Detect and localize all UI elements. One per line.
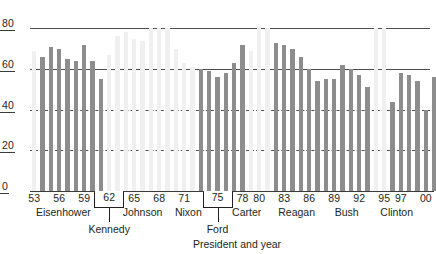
y-tick-value: 20	[0, 139, 15, 153]
x-tick-label: 86	[303, 192, 315, 204]
bar	[257, 26, 262, 191]
bar-series	[30, 8, 430, 191]
bar	[82, 45, 87, 191]
bar	[207, 71, 212, 191]
x-tick-label: 75	[204, 191, 232, 203]
bar	[415, 81, 420, 191]
x-tick-label: 68	[153, 192, 165, 204]
approval-rating-bar-chart: 020406080 535659656871788083868992959700…	[0, 0, 436, 254]
bar	[424, 110, 429, 191]
bar	[357, 75, 362, 191]
x-tick-label: 89	[328, 192, 340, 204]
x-axis-title: President and year	[193, 238, 281, 250]
bar	[57, 49, 62, 191]
y-tick-label: 0	[0, 180, 28, 194]
plot-area	[30, 8, 430, 191]
bar	[307, 69, 312, 191]
bar	[99, 79, 104, 191]
president-label: Clinton	[380, 206, 413, 218]
president-bracket: 62	[94, 192, 124, 208]
x-tick-label: 78	[237, 192, 249, 204]
bar	[132, 39, 137, 192]
bar	[40, 57, 45, 191]
bar	[107, 55, 112, 191]
bar	[249, 51, 254, 191]
x-tick-label: 95	[378, 192, 390, 204]
x-tick-label: 97	[395, 192, 407, 204]
bar	[174, 49, 179, 191]
bar	[49, 47, 54, 191]
bar	[149, 28, 154, 191]
bar	[274, 43, 279, 191]
y-tick-value: 80	[0, 17, 15, 31]
x-tick-label: 71	[178, 192, 190, 204]
x-tick-label: 80	[253, 192, 265, 204]
president-label: Eisenhower	[36, 206, 91, 218]
x-tick-label: 83	[278, 192, 290, 204]
bar	[265, 28, 270, 191]
y-tick-label: 80	[0, 17, 28, 31]
president-label: Bush	[335, 206, 359, 218]
x-tick-label: 00	[420, 192, 432, 204]
bar	[224, 73, 229, 191]
president-bracket: 75	[203, 192, 233, 208]
x-tick-label: 65	[128, 192, 140, 204]
bar	[365, 87, 370, 191]
bar	[315, 81, 320, 191]
bar	[349, 69, 354, 191]
president-label: Carter	[232, 206, 261, 218]
bar	[382, 28, 387, 191]
president-callout-label: Ford	[207, 223, 229, 235]
bar	[240, 45, 245, 191]
bar	[340, 65, 345, 191]
x-tick-label: 56	[53, 192, 65, 204]
x-tick-label: 59	[78, 192, 90, 204]
bar	[165, 28, 170, 191]
president-label: Reagan	[278, 206, 315, 218]
bar	[140, 41, 145, 191]
bar	[65, 59, 70, 191]
bar	[232, 63, 237, 191]
bar	[157, 28, 162, 191]
x-tick-label: 92	[353, 192, 365, 204]
bar	[324, 79, 329, 191]
bar	[282, 45, 287, 191]
callout-leader-line	[218, 208, 219, 222]
president-label: Nixon	[175, 206, 202, 218]
bar	[190, 67, 195, 191]
bar	[115, 36, 120, 191]
callout-leader-line	[109, 208, 110, 222]
bar	[290, 49, 295, 191]
bar	[432, 77, 436, 191]
bar	[374, 28, 379, 191]
bar	[32, 51, 37, 191]
y-tick-value: 0	[0, 180, 9, 194]
y-tick-label: 40	[0, 99, 28, 113]
bar	[299, 57, 304, 191]
bar	[215, 77, 220, 191]
y-tick-label: 20	[0, 139, 28, 153]
president-callout-label: Kennedy	[88, 223, 129, 235]
bar	[182, 63, 187, 191]
president-group-labels: EisenhowerJohnsonNixonCarterReaganBushCl…	[30, 206, 430, 222]
y-tick-value: 60	[0, 58, 15, 72]
bar	[332, 79, 337, 191]
bar	[390, 102, 395, 191]
x-tick-label: 62	[95, 191, 123, 203]
y-tick-label: 60	[0, 58, 28, 72]
bar	[74, 61, 79, 191]
y-tick-value: 40	[0, 99, 15, 113]
bar	[124, 32, 129, 191]
bar	[399, 73, 404, 191]
bar	[199, 69, 204, 191]
bar	[407, 75, 412, 191]
president-label: Johnson	[123, 206, 163, 218]
x-tick-label: 53	[28, 192, 40, 204]
bar	[90, 61, 95, 191]
